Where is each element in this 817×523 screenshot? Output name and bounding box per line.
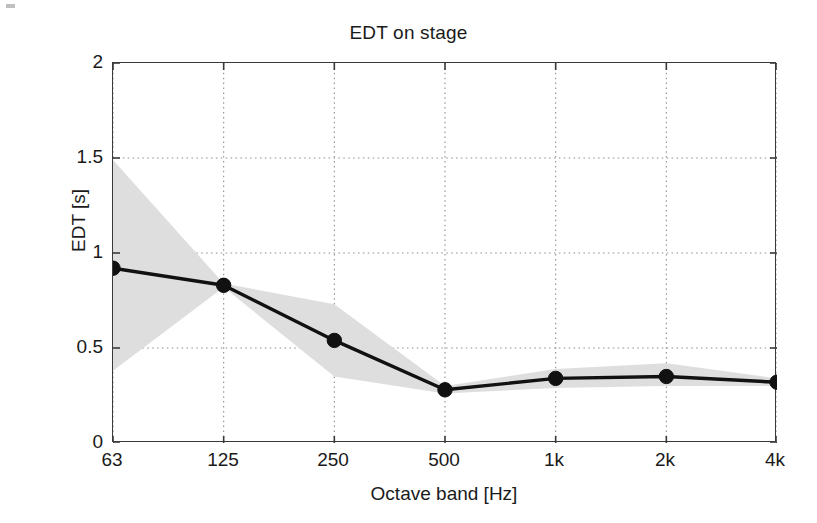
figure-canvas: EDT on stage 2 1.5 1 0.5 0 63 125 250 50… — [0, 0, 817, 523]
x-tick-500: 500 — [428, 449, 460, 471]
x-tick-2k: 2k — [655, 449, 675, 471]
x-tick-4k: 4k — [765, 449, 785, 471]
x-tick-1k: 1k — [544, 449, 564, 471]
x-tick-63: 63 — [101, 449, 122, 471]
plot-area — [112, 62, 776, 442]
y-axis-label: EDT [s] — [68, 189, 90, 252]
x-tick-250: 250 — [317, 449, 349, 471]
plot-svg — [113, 63, 777, 443]
x-axis-label: Octave band [Hz] — [112, 483, 776, 505]
x-tick-125: 125 — [207, 449, 239, 471]
spread-band — [113, 160, 777, 394]
